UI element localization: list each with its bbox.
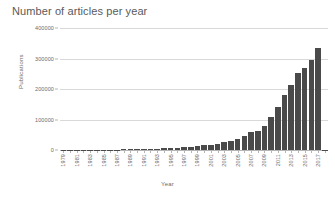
bar: [188, 147, 194, 150]
bar: [322, 150, 328, 151]
bar: [242, 136, 248, 150]
x-axis-tick-mark: [231, 151, 232, 153]
bar: [61, 150, 67, 151]
bar: [107, 150, 113, 151]
x-axis-tick-mark: [271, 151, 272, 153]
x-axis-tick-mark: [177, 151, 178, 153]
x-axis-tick-label: 1979: [60, 154, 66, 167]
bar: [168, 148, 174, 150]
x-axis-tick-label: 1999: [194, 154, 200, 167]
bar: [275, 107, 281, 150]
x-axis-tick-mark: [104, 151, 105, 153]
x-axis-tick-label: 2017: [315, 154, 321, 167]
x-axis-tick-mark: [285, 151, 286, 153]
x-axis-tick-mark: [130, 151, 131, 153]
x-axis-tick: 1983: [87, 151, 94, 181]
x-axis-tick-mark: [298, 151, 299, 153]
bar: [175, 148, 181, 150]
x-axis-tick: 1995: [167, 151, 174, 181]
y-axis-tick-label: 200000: [35, 86, 54, 92]
x-axis-tick: [321, 151, 328, 181]
x-axis-tick: [107, 151, 114, 181]
x-axis-tick-mark: [90, 151, 91, 153]
x-axis-tick-mark: [311, 151, 312, 153]
x-axis-tick: [94, 151, 101, 181]
bar: [315, 48, 321, 150]
x-axis-tick-mark: [291, 151, 292, 153]
x-axis-tick-mark: [305, 151, 306, 153]
x-axis-tick-label: 2005: [235, 154, 241, 167]
bar-chart: Number of articles per year Publications…: [0, 0, 335, 199]
bar: [262, 126, 268, 150]
x-axis-tick: [268, 151, 275, 181]
x-axis-tick-mark: [124, 151, 125, 153]
x-axis-tick-label: 1987: [114, 154, 120, 167]
x-axis-tick-mark: [218, 151, 219, 153]
bar: [248, 132, 254, 150]
x-axis-tick: 2007: [248, 151, 255, 181]
x-axis-tick: [80, 151, 87, 181]
x-axis-tick-mark: [97, 151, 98, 153]
x-axis-tick-mark: [110, 151, 111, 153]
x-axis-tick-mark: [244, 151, 245, 153]
x-axis-tick-mark: [171, 151, 172, 153]
x-axis-tick-mark: [197, 151, 198, 153]
x-axis-tick-label: 1993: [154, 154, 160, 167]
x-axis-tick: [295, 151, 302, 181]
bar: [255, 131, 261, 150]
x-axis-tick-mark: [258, 151, 259, 153]
x-axis-tick: [161, 151, 168, 181]
bar: [114, 150, 120, 151]
x-axis-tick-label: 2003: [221, 154, 227, 167]
x-axis-tick-mark: [184, 151, 185, 153]
x-axis-tick: [308, 151, 315, 181]
bar: [67, 150, 73, 151]
x-axis-tick: 1991: [140, 151, 147, 181]
bar: [288, 85, 294, 150]
y-axis-tick-labels: 0100000200000300000400000: [0, 0, 60, 199]
bar: [121, 149, 127, 150]
y-axis-tick-label: 300000: [35, 56, 54, 62]
y-axis-tick-mark: [55, 89, 58, 90]
x-axis-tick: 1993: [154, 151, 161, 181]
x-axis-tick: 1989: [127, 151, 134, 181]
x-axis-tick: 2017: [315, 151, 322, 181]
x-axis-tick-mark: [318, 151, 319, 153]
bar: [215, 144, 221, 150]
bar-series: [60, 28, 328, 150]
x-axis-tick: 2013: [288, 151, 295, 181]
x-axis-tick: [228, 151, 235, 181]
x-axis-tick-mark: [137, 151, 138, 153]
bar: [228, 141, 234, 150]
bar: [134, 149, 140, 150]
bar: [295, 73, 301, 150]
x-axis-tick-label: 1981: [74, 154, 80, 167]
x-axis-tick-label: 1991: [141, 154, 147, 167]
x-axis-tick-label: 1983: [87, 154, 93, 167]
bar: [81, 150, 87, 151]
y-axis-tick-mark: [55, 119, 58, 120]
x-axis-tick-mark: [150, 151, 151, 153]
x-axis-tick-mark: [77, 151, 78, 153]
x-axis-tick-mark: [63, 151, 64, 153]
y-axis-tick-label: 0: [51, 147, 54, 153]
x-axis-tick: 1987: [114, 151, 121, 181]
x-axis-tick-mark: [164, 151, 165, 153]
bar: [128, 149, 134, 150]
x-axis-tick-mark: [70, 151, 71, 153]
x-axis-tick-mark: [251, 151, 252, 153]
bar: [154, 149, 160, 150]
x-axis-tick-labels: 1979198119831985198719891991199319951997…: [60, 151, 328, 181]
x-axis-tick-label: 2013: [288, 154, 294, 167]
bar: [161, 148, 167, 150]
y-axis-tick-label: 100000: [35, 117, 54, 123]
y-axis-tick-mark: [55, 150, 58, 151]
x-axis-tick-mark: [264, 151, 265, 153]
x-axis-tick: 1997: [181, 151, 188, 181]
x-axis-tick: [241, 151, 248, 181]
x-axis-tick-label: 1989: [127, 154, 133, 167]
bar: [235, 139, 241, 150]
bar: [221, 142, 227, 150]
x-axis-tick: [67, 151, 74, 181]
x-axis-tick: 2005: [234, 151, 241, 181]
